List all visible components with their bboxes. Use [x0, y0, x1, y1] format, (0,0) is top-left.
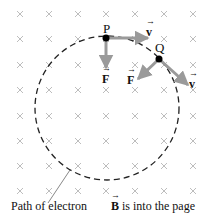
field-cross-icon: [103, 163, 109, 169]
field-cross-icon: [161, 163, 167, 169]
field-cross-icon: [161, 188, 167, 194]
field-cross-icon: [190, 11, 196, 17]
field-cross-icon: [75, 11, 81, 17]
magnetic-field-diagram: P Q →v →F →F →v Path of electron →B is i…: [0, 0, 206, 214]
field-cross-icon: [161, 87, 167, 93]
velocity-p-label: →v: [146, 25, 152, 40]
field-cross-icon: [17, 87, 23, 93]
field-cross-icon: [103, 113, 109, 119]
field-cross-icon: [132, 163, 138, 169]
force-q-label: →F: [127, 73, 134, 88]
velocity-q-label: →v: [189, 77, 195, 92]
field-cross-icon: [161, 138, 167, 144]
field-cross-icon: [17, 163, 23, 169]
field-cross-icon: [46, 87, 52, 93]
field-cross-icon: [17, 62, 23, 68]
field-cross-icon: [132, 138, 138, 144]
point-q-label: Q: [155, 40, 164, 56]
field-cross-icon: [46, 138, 52, 144]
field-cross-icon: [103, 138, 109, 144]
field-cross-icon: [161, 11, 167, 17]
field-cross-icon: [17, 36, 23, 42]
field-cross-icon: [75, 113, 81, 119]
field-cross-icon: [161, 113, 167, 119]
field-cross-icon: [75, 163, 81, 169]
field-cross-icon: [190, 163, 196, 169]
field-cross-icon: [46, 188, 52, 194]
field-cross-icon: [75, 188, 81, 194]
force-p-label: →F: [102, 72, 109, 87]
field-cross-icon: [75, 138, 81, 144]
field-cross-icon: [75, 87, 81, 93]
force-arrow-q: [138, 59, 159, 79]
field-cross-icon: [190, 138, 196, 144]
field-caption: →B is into the page: [111, 199, 195, 214]
field-cross-icon: [132, 113, 138, 119]
field-cross-icon: [190, 113, 196, 119]
field-cross-icon: [46, 36, 52, 42]
field-cross-icon: [17, 188, 23, 194]
field-cross-icon: [17, 138, 23, 144]
field-cross-icon: [103, 188, 109, 194]
field-cross-icon: [17, 113, 23, 119]
field-cross-icon: [46, 163, 52, 169]
field-cross-icon: [46, 11, 52, 17]
field-cross-icon: [17, 11, 23, 17]
point-p-label: P: [103, 21, 110, 37]
field-cross-icon: [190, 36, 196, 42]
path-caption: Path of electron: [11, 199, 87, 214]
field-cross-icon: [103, 87, 109, 93]
field-cross-icon: [103, 11, 109, 17]
field-cross-icon: [75, 62, 81, 68]
field-cross-icon: [132, 188, 138, 194]
field-cross-icon: [132, 11, 138, 17]
field-cross-icon: [46, 113, 52, 119]
field-cross-icon: [190, 188, 196, 194]
point-q-dot: [156, 56, 163, 63]
